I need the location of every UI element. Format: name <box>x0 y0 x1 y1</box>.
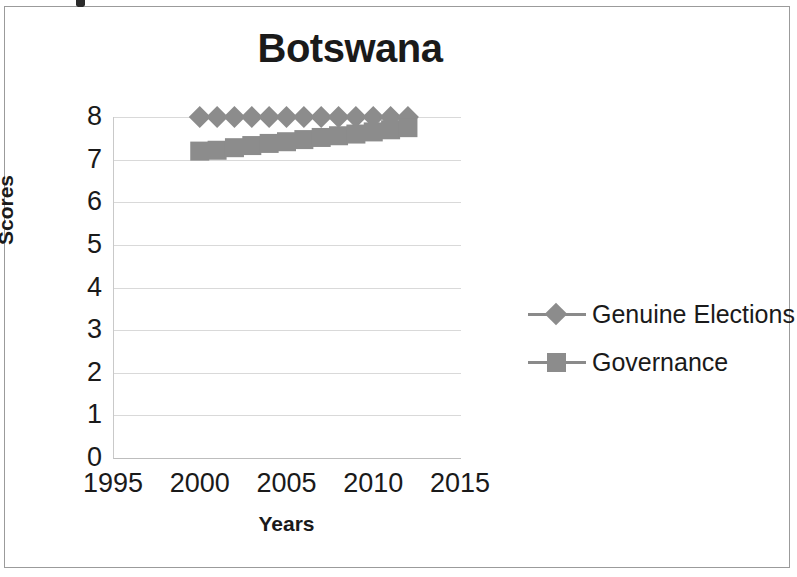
legend-label: Genuine Elections <box>586 300 795 329</box>
y-tick-label: 5 <box>56 231 102 258</box>
gridline <box>114 288 461 289</box>
gridline <box>114 117 461 118</box>
y-axis-title: Scores <box>0 175 18 245</box>
x-tick-label: 2015 <box>405 470 515 497</box>
legend-item-governance: Governance <box>528 338 784 386</box>
y-tick-label: 8 <box>56 103 102 130</box>
chart-botswana: Botswana 012345678 19952000200520102015 … <box>0 0 797 577</box>
legend-item-genuine-elections: Genuine Elections <box>528 290 784 338</box>
gridline <box>114 330 461 331</box>
y-tick-label: 4 <box>56 274 102 301</box>
gridline <box>114 415 461 416</box>
y-tick-label: 1 <box>56 401 102 428</box>
y-tick-label: 3 <box>56 316 102 343</box>
y-tick-label: 7 <box>56 146 102 173</box>
chart-legend: Genuine Elections Governance <box>528 290 784 386</box>
plot-area <box>113 117 461 459</box>
gridline <box>114 202 461 203</box>
gridline <box>114 245 461 246</box>
gridline <box>114 160 461 161</box>
chart-title: Botswana <box>0 26 700 71</box>
square-marker-icon <box>528 350 586 374</box>
legend-label: Governance <box>586 348 728 377</box>
y-tick-label: 0 <box>56 444 102 471</box>
y-tick-label: 2 <box>56 359 102 386</box>
x-axis-title: Years <box>113 512 460 536</box>
y-tick-label: 6 <box>56 188 102 215</box>
gridline <box>114 373 461 374</box>
diamond-marker-icon <box>528 302 586 326</box>
